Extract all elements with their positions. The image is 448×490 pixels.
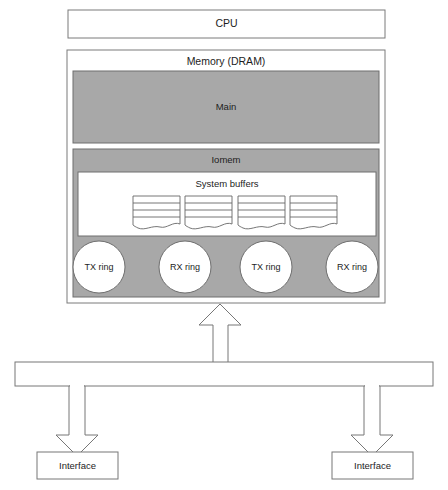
memory-block: Memory (DRAM) Main Iomem System buffers — [67, 50, 385, 303]
ring-label: TX ring — [251, 262, 280, 272]
cpu-label: CPU — [215, 17, 237, 29]
interface-block-left: Interface — [37, 452, 118, 479]
interface-label: Interface — [354, 460, 391, 471]
buffer-outline — [238, 196, 285, 229]
ring-label: RX ring — [337, 262, 367, 272]
buffer-outline — [290, 196, 337, 229]
interface-label: Interface — [59, 460, 96, 471]
architecture-diagram: CPU Memory (DRAM) Main Iomem System buff… — [0, 0, 448, 490]
iomem-label: Iomem — [211, 154, 240, 165]
bus-to-interface-arrow-right — [351, 380, 393, 456]
arrow-seam-mask — [365, 380, 379, 388]
system-buffers-panel: System buffers — [78, 172, 376, 236]
buffer-3 — [238, 196, 285, 229]
system-buffers-label: System buffers — [195, 178, 258, 189]
buffer-4 — [290, 196, 337, 229]
buffer-1 — [133, 196, 180, 229]
buffer-outline — [133, 196, 180, 229]
bus-seam-mask — [214, 363, 227, 385]
ring-label: TX ring — [84, 262, 113, 272]
interface-block-right: Interface — [332, 452, 413, 479]
main-label: Main — [216, 101, 237, 112]
diagram-canvas: CPU Memory (DRAM) Main Iomem System buff… — [0, 0, 448, 490]
up-arrow-shape — [199, 304, 241, 363]
main-memory-block: Main — [73, 71, 379, 143]
ring-rx-2: RX ring — [326, 241, 378, 293]
ring-label: RX ring — [170, 262, 200, 272]
ring-tx-2: TX ring — [240, 241, 292, 293]
down-arrow-shape — [351, 386, 393, 456]
cpu-block: CPU — [68, 10, 385, 38]
ring-rx-1: RX ring — [159, 241, 211, 293]
iomem-block: Iomem System buffers — [73, 149, 379, 297]
memory-label: Memory (DRAM) — [187, 55, 266, 67]
down-arrow-shape — [56, 386, 98, 456]
arrow-seam-mask — [70, 380, 84, 388]
buffer-outline — [185, 196, 232, 229]
bus-to-memory-arrow — [199, 304, 241, 363]
buffer-2 — [185, 196, 232, 229]
bus-to-interface-arrow-left — [56, 380, 98, 456]
ring-tx-1: TX ring — [73, 241, 125, 293]
